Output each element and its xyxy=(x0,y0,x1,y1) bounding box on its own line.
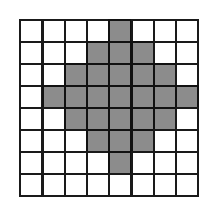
grid-cell-filled xyxy=(153,85,177,109)
grid-cell-filled xyxy=(42,85,66,109)
grid-cell-filled xyxy=(64,63,88,87)
grid-cell-empty xyxy=(175,41,199,65)
grid-cell-empty xyxy=(19,173,43,197)
grid-cell-empty xyxy=(153,151,177,175)
grid-cell-empty xyxy=(42,41,66,65)
diamond-grid xyxy=(19,19,199,197)
grid-cell-empty xyxy=(42,151,66,175)
grid-cell-empty xyxy=(42,173,66,197)
grid-cell-empty xyxy=(175,151,199,175)
grid-cell-empty xyxy=(175,129,199,153)
grid-cell-empty xyxy=(64,129,88,153)
grid-cell-empty xyxy=(19,19,43,43)
grid-cell-filled xyxy=(131,107,155,131)
grid-cell-empty xyxy=(175,107,199,131)
grid-cell-filled xyxy=(108,107,132,131)
grid-cell-empty xyxy=(175,173,199,197)
grid-cell-empty xyxy=(64,151,88,175)
grid-cell-filled xyxy=(86,85,110,109)
grid-cell-empty xyxy=(175,19,199,43)
grid-cell-filled xyxy=(86,107,110,131)
grid-cell-empty xyxy=(42,63,66,87)
grid-cell-filled xyxy=(131,41,155,65)
grid-cell-filled xyxy=(153,107,177,131)
grid-cell-empty xyxy=(131,19,155,43)
grid-cell-filled xyxy=(86,41,110,65)
grid-cell-filled xyxy=(131,85,155,109)
grid-cell-empty xyxy=(175,63,199,87)
grid-cell-filled xyxy=(131,129,155,153)
grid-cell-filled xyxy=(108,85,132,109)
grid-cell-filled xyxy=(175,85,199,109)
grid-cell-empty xyxy=(64,173,88,197)
grid-cell-filled xyxy=(108,41,132,65)
grid-cell-empty xyxy=(42,107,66,131)
grid-cell-filled xyxy=(153,63,177,87)
grid-cell-empty xyxy=(19,41,43,65)
grid-cell-filled xyxy=(86,63,110,87)
grid-cell-empty xyxy=(153,19,177,43)
grid-cell-filled xyxy=(108,63,132,87)
grid-cell-empty xyxy=(42,129,66,153)
grid-cell-empty xyxy=(64,41,88,65)
grid-cell-empty xyxy=(86,173,110,197)
grid-cell-empty xyxy=(19,129,43,153)
grid-cell-filled xyxy=(64,107,88,131)
grid-cell-filled xyxy=(64,85,88,109)
grid-cell-empty xyxy=(19,107,43,131)
grid-cell-empty xyxy=(131,173,155,197)
grid-cell-empty xyxy=(86,19,110,43)
grid-cell-empty xyxy=(131,151,155,175)
grid-cell-empty xyxy=(19,63,43,87)
grid-cell-filled xyxy=(86,129,110,153)
grid-cell-empty xyxy=(19,85,43,109)
grid-cell-filled xyxy=(108,151,132,175)
grid-cell-filled xyxy=(108,19,132,43)
grid-cell-filled xyxy=(131,63,155,87)
grid-cell-empty xyxy=(64,19,88,43)
grid-cell-empty xyxy=(153,173,177,197)
grid-cell-empty xyxy=(19,151,43,175)
grid-cell-empty xyxy=(108,173,132,197)
grid-cell-empty xyxy=(153,129,177,153)
grid-cell-empty xyxy=(86,151,110,175)
grid-cell-empty xyxy=(42,19,66,43)
grid-cell-empty xyxy=(153,41,177,65)
grid-cell-filled xyxy=(108,129,132,153)
